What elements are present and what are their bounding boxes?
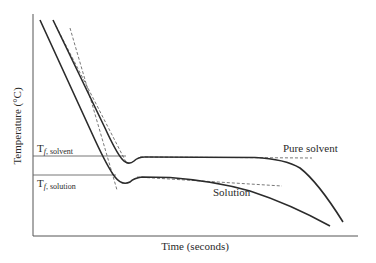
tf-solvent-main: T: [37, 142, 44, 154]
pure-solvent-curve: [53, 20, 343, 222]
tf-solvent-label: Tf, solvent: [37, 142, 73, 156]
solution-label: Solution: [213, 186, 250, 198]
tf-solvent-rest: , solvent: [46, 147, 73, 156]
tf-solution-rest: , solution: [46, 182, 76, 191]
y-axis-label: Temperature (°C): [11, 87, 23, 164]
cooling-curve-chart: [0, 0, 376, 263]
extrapolation-lines: [56, 26, 312, 190]
pure-solvent-label: Pure solvent: [283, 142, 338, 154]
x-axis-label: Time (seconds): [161, 240, 229, 252]
solution-curve: [40, 20, 330, 226]
tf-solution-main: T: [37, 177, 44, 189]
tf-solution-label: Tf, solution: [37, 177, 76, 191]
